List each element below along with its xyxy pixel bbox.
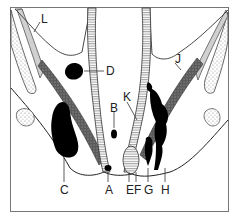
anatomy-illustration <box>0 0 239 221</box>
abscess-g <box>145 137 153 166</box>
label-k: K <box>123 91 131 103</box>
left-ischium <box>16 109 34 126</box>
label-f: F <box>134 184 141 196</box>
label-e: E <box>126 184 134 196</box>
label-c: C <box>60 184 69 196</box>
perineum-skin-line <box>11 88 228 176</box>
label-b: B <box>110 102 118 114</box>
label-g: G <box>144 184 153 196</box>
abscess-d <box>65 63 83 80</box>
abscess-a <box>105 165 112 171</box>
label-h: H <box>161 184 170 196</box>
diagram-canvas: A B C D E F G H J K L <box>0 0 239 221</box>
external-sphincter <box>123 146 139 174</box>
abscess-b <box>111 130 117 139</box>
label-d: D <box>106 65 115 77</box>
label-l: L <box>41 13 48 25</box>
frame <box>11 8 229 212</box>
label-j: J <box>175 53 181 65</box>
right-ischium <box>204 109 220 126</box>
label-a: A <box>105 184 113 196</box>
